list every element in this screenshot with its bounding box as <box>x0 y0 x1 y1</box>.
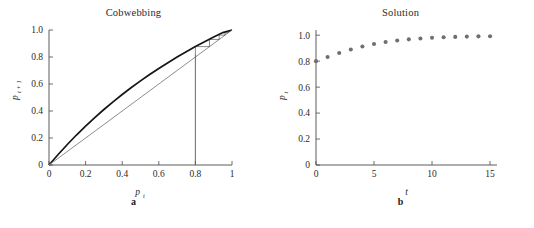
identity-line <box>49 30 232 165</box>
data-point <box>395 38 399 42</box>
data-point <box>418 36 422 40</box>
y-tick-label: 0.4 <box>31 106 43 116</box>
x-tick-label: 1 <box>230 169 235 179</box>
x-tick-label: 0 <box>314 169 319 179</box>
y-tick-label: 0.8 <box>298 57 310 67</box>
x-tick-label: 5 <box>372 169 377 179</box>
panel-b-plot: 05101500.20.40.60.81.0tpt <box>267 0 534 228</box>
panel-b-ylabel-group: pt <box>277 92 289 101</box>
y-tick-label: 0 <box>38 160 43 170</box>
x-tick-label: 0.4 <box>116 169 128 179</box>
x-tick-label: 0.6 <box>153 169 165 179</box>
panel-a-ylabel-group: pt + 1 <box>10 80 22 101</box>
x-tick-label: 0.2 <box>80 169 92 179</box>
data-point <box>349 47 353 51</box>
x-tick-label: 10 <box>427 169 437 179</box>
data-point <box>488 34 492 38</box>
panel-b: Solution 05101500.20.40.60.81.0tpt b <box>267 0 534 228</box>
x-tick-label: 0.8 <box>189 169 201 179</box>
y-tick-label: 1.0 <box>298 31 310 41</box>
data-point <box>326 55 330 59</box>
y-tick-label: 0.2 <box>31 133 43 143</box>
y-tick-label: 0 <box>305 160 310 170</box>
data-point <box>372 42 376 46</box>
x-tick-label: 0 <box>47 169 52 179</box>
y-tick-label: 0.6 <box>298 83 310 93</box>
panel-a: Cobwebbing 00.20.40.60.8100.20.40.60.81.… <box>0 0 267 228</box>
panel-a-caption: a <box>0 196 267 207</box>
data-point <box>442 35 446 39</box>
data-point <box>384 40 388 44</box>
figure-container: Cobwebbing 00.20.40.60.8100.20.40.60.81.… <box>0 0 534 228</box>
y-tick-label: 0.8 <box>31 52 43 62</box>
data-point <box>476 34 480 38</box>
panel-a-ylabel: p <box>10 95 20 101</box>
panel-b-ylabel: p <box>277 95 287 101</box>
data-point <box>314 59 318 63</box>
data-point <box>337 51 341 55</box>
data-point <box>407 37 411 41</box>
panel-b-axes <box>316 30 497 165</box>
data-point <box>465 35 469 39</box>
data-point <box>430 36 434 40</box>
y-tick-label: 0.4 <box>298 108 310 118</box>
y-tick-label: 0.6 <box>31 79 43 89</box>
panel-a-ylabel-sub: t + 1 <box>15 80 22 93</box>
y-tick-label: 1.0 <box>31 25 43 35</box>
panel-a-plot: 00.20.40.60.8100.20.40.60.81.0ptpt + 1 <box>0 0 267 228</box>
data-point <box>360 44 364 48</box>
panel-b-caption: b <box>267 196 534 207</box>
panel-b-ylabel-sub: t <box>282 92 289 94</box>
y-tick-label: 0.2 <box>298 134 310 144</box>
x-tick-label: 15 <box>485 169 495 179</box>
cobweb-staircase <box>195 30 232 165</box>
data-point <box>453 35 457 39</box>
